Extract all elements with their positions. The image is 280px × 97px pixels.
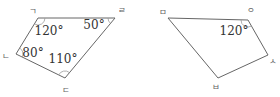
right-quadrilateral-figure: 120° ㅁ ㅇ ㅅ ㅂ	[159, 5, 277, 92]
geometry-diagram: 120° 50° 80° 110° ㄱ ㄹ ㄴ ㄷ 120° ㅁ ㅇ ㅅ ㅂ	[0, 0, 280, 97]
angle-label-top-right: 50°	[83, 18, 104, 32]
vertex-label-rieul: ㄹ	[118, 5, 126, 15]
angle-arc-top-right	[108, 18, 111, 23]
angle-label-bottom-left: 80°	[22, 46, 43, 60]
vertex-label-nieun: ㄴ	[2, 51, 10, 61]
angle-label-top-right: 120°	[220, 24, 249, 38]
vertex-label-digeut: ㄷ	[62, 85, 70, 95]
vertex-label-giyeok: ㄱ	[29, 6, 37, 16]
vertex-label-ieung: ㅇ	[247, 5, 255, 15]
angle-label-bottom: 110°	[49, 52, 78, 66]
angle-label-top-left: 120°	[35, 24, 64, 38]
vertex-label-bieup: ㅂ	[212, 82, 220, 92]
quadrilateral-outline	[168, 18, 268, 78]
diagram-svg: 120° 50° 80° 110° ㄱ ㄹ ㄴ ㄷ 120° ㅁ ㅇ ㅅ ㅂ	[0, 0, 280, 97]
vertex-label-siot: ㅅ	[269, 56, 277, 66]
left-quadrilateral-figure: 120° 50° 80° 110° ㄱ ㄹ ㄴ ㄷ	[2, 5, 126, 95]
vertex-label-mieum: ㅁ	[159, 7, 167, 17]
